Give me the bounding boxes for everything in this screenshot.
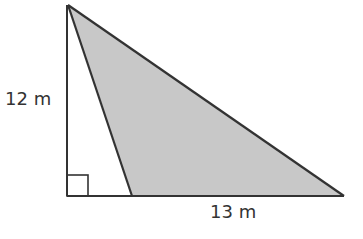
base-label: 13 m <box>210 201 256 222</box>
triangle-diagram <box>0 0 363 239</box>
height-label: 12 m <box>5 88 51 109</box>
right-angle-marker <box>67 175 88 196</box>
